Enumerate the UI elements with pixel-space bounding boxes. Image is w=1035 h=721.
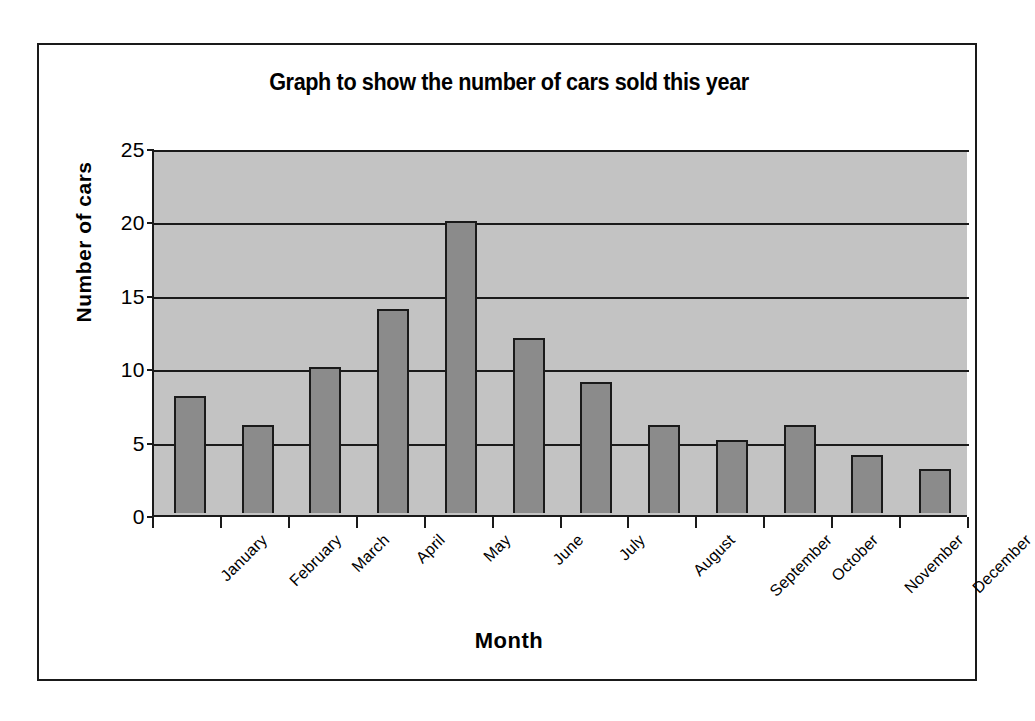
y-tick-label: 20 bbox=[121, 211, 145, 235]
bar[interactable] bbox=[716, 440, 748, 513]
bar-slot[interactable] bbox=[495, 148, 563, 513]
x-tick-mark bbox=[899, 517, 901, 528]
x-tick-mark bbox=[763, 517, 765, 528]
x-tick-label: February bbox=[287, 531, 346, 590]
bar[interactable] bbox=[919, 469, 951, 513]
x-tick-mark bbox=[152, 517, 154, 528]
bar[interactable] bbox=[580, 382, 612, 513]
plot-wrap: 0510152025 JanuaryFebruaryMarchAprilMayJ… bbox=[152, 150, 967, 517]
chart-frame: Graph to show the number of cars sold th… bbox=[37, 43, 977, 681]
x-axis-ticks bbox=[152, 517, 967, 528]
x-tick-label: May bbox=[480, 531, 515, 566]
bar-slot[interactable] bbox=[563, 148, 631, 513]
x-tick-mark bbox=[356, 517, 358, 528]
x-axis-title: Month bbox=[39, 628, 979, 654]
bar[interactable] bbox=[309, 367, 341, 513]
bar-slot[interactable] bbox=[427, 148, 495, 513]
y-tick-label: 5 bbox=[133, 432, 145, 456]
bar-slot[interactable] bbox=[766, 148, 834, 513]
bar[interactable] bbox=[784, 425, 816, 513]
x-tick-label: January bbox=[217, 531, 271, 585]
x-tick-label: April bbox=[413, 531, 449, 567]
x-tick-label: December bbox=[969, 531, 1035, 597]
x-tick-label: October bbox=[828, 531, 882, 585]
bar[interactable] bbox=[648, 425, 680, 513]
chart-title: Graph to show the number of cars sold th… bbox=[67, 69, 951, 96]
x-tick-label: June bbox=[550, 531, 588, 569]
y-tick-mark bbox=[147, 296, 154, 298]
y-tick-label: 10 bbox=[121, 358, 145, 382]
bar[interactable] bbox=[851, 455, 883, 513]
bar-slot[interactable] bbox=[156, 148, 224, 513]
bar[interactable] bbox=[377, 309, 409, 513]
x-tick-mark bbox=[560, 517, 562, 528]
y-tick-label: 25 bbox=[121, 138, 145, 162]
bar-series bbox=[156, 148, 969, 513]
x-tick-mark bbox=[424, 517, 426, 528]
y-tick-mark bbox=[147, 149, 154, 151]
y-tick-label: 15 bbox=[121, 285, 145, 309]
x-tick-label: July bbox=[616, 531, 649, 564]
bar-slot[interactable] bbox=[834, 148, 902, 513]
bar-slot[interactable] bbox=[224, 148, 292, 513]
x-tick-mark bbox=[492, 517, 494, 528]
x-tick-label: September bbox=[766, 531, 835, 600]
x-tick-mark bbox=[695, 517, 697, 528]
bar[interactable] bbox=[242, 425, 274, 513]
x-tick-label: August bbox=[690, 531, 739, 580]
y-axis-title: Number of cars bbox=[72, 142, 96, 342]
bar[interactable] bbox=[445, 221, 477, 513]
x-tick-mark bbox=[288, 517, 290, 528]
bar-slot[interactable] bbox=[292, 148, 360, 513]
x-tick-mark bbox=[627, 517, 629, 528]
x-tick-label: March bbox=[349, 531, 394, 576]
x-tick-mark bbox=[220, 517, 222, 528]
y-tick-mark bbox=[147, 369, 154, 371]
bar-slot[interactable] bbox=[359, 148, 427, 513]
y-tick-label: 0 bbox=[133, 505, 145, 529]
bar-slot[interactable] bbox=[901, 148, 969, 513]
x-axis-tick-labels: JanuaryFebruaryMarchAprilMayJuneJulyAugu… bbox=[152, 531, 967, 631]
bar-slot[interactable] bbox=[698, 148, 766, 513]
y-tick-mark bbox=[147, 443, 154, 445]
x-tick-mark bbox=[831, 517, 833, 528]
plot-area: 0510152025 bbox=[152, 150, 967, 517]
bar[interactable] bbox=[174, 396, 206, 513]
bar[interactable] bbox=[513, 338, 545, 513]
bar-slot[interactable] bbox=[630, 148, 698, 513]
x-tick-mark bbox=[967, 517, 969, 528]
y-tick-mark bbox=[147, 222, 154, 224]
x-tick-label: November bbox=[901, 531, 967, 597]
